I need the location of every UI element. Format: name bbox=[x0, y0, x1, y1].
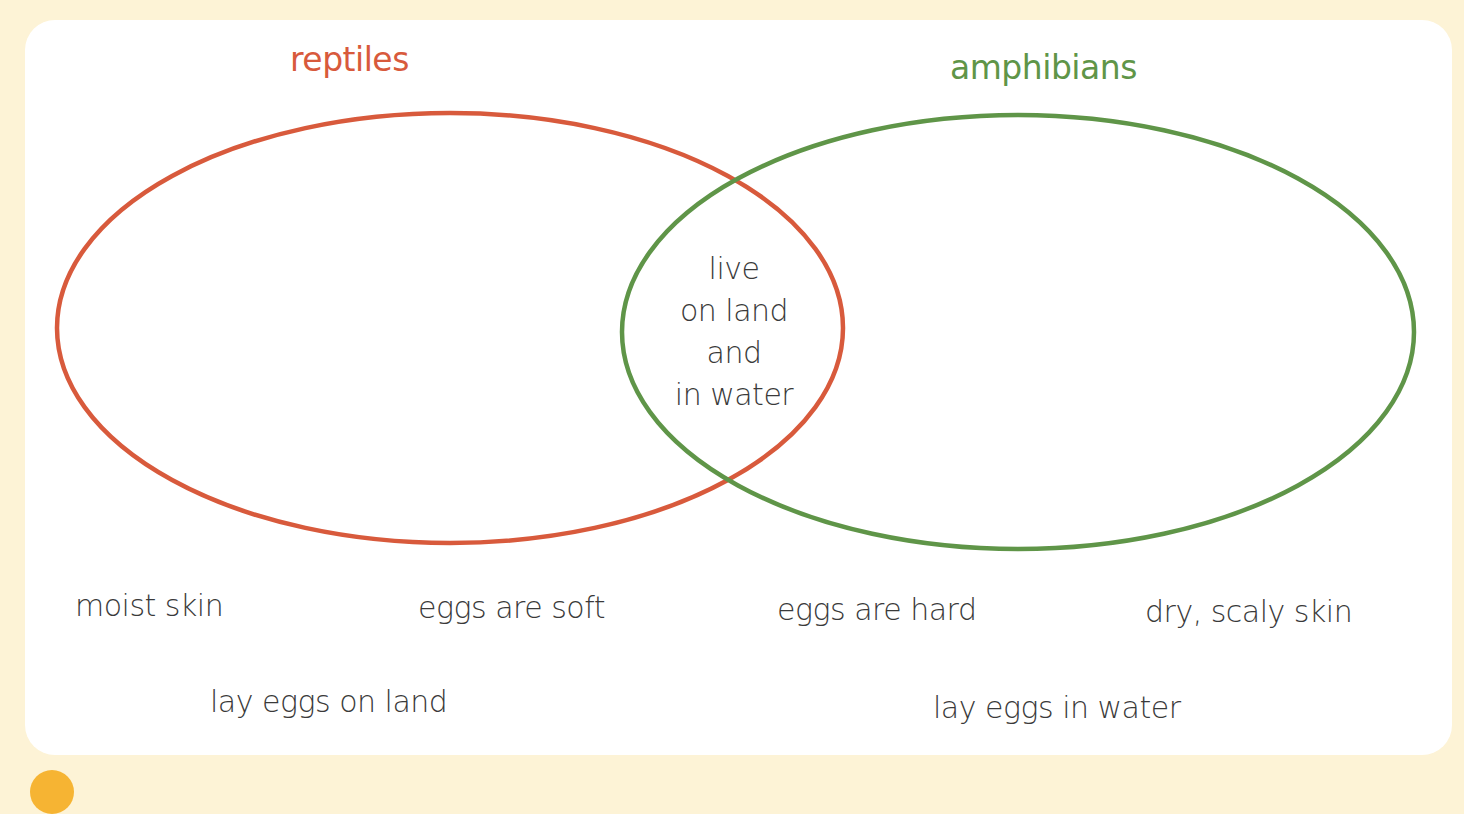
intersection-line: and bbox=[634, 332, 834, 374]
label-lay-eggs-in-water[interactable]: lay eggs in water bbox=[933, 690, 1181, 725]
label-eggs-are-soft[interactable]: eggs are soft bbox=[418, 590, 605, 625]
intersection-label: live on land and in water bbox=[634, 248, 834, 416]
intersection-line: live bbox=[634, 248, 834, 290]
label-dry-scaly-skin[interactable]: dry, scaly skin bbox=[1145, 594, 1352, 629]
label-moist-skin[interactable]: moist skin bbox=[75, 588, 223, 623]
reptiles-title: reptiles bbox=[290, 40, 409, 79]
intersection-line: on land bbox=[634, 290, 834, 332]
label-eggs-are-hard[interactable]: eggs are hard bbox=[777, 592, 976, 627]
intersection-line: in water bbox=[634, 374, 834, 416]
decorative-dot bbox=[30, 770, 74, 814]
label-lay-eggs-on-land[interactable]: lay eggs on land bbox=[210, 684, 447, 719]
amphibians-title: amphibians bbox=[950, 48, 1137, 87]
